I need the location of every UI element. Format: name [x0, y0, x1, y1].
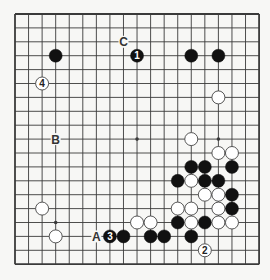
black-stone: [198, 216, 211, 229]
white-stone: [225, 216, 238, 229]
black-stone: [158, 230, 171, 243]
white-stone: [185, 216, 198, 229]
black-stone: [212, 49, 225, 62]
black-stone: [225, 202, 238, 215]
white-stone: [131, 216, 144, 229]
white-stone: [185, 202, 198, 215]
marker-b: B: [51, 133, 60, 147]
move-number-2: 2: [202, 245, 208, 256]
black-stone: [117, 230, 130, 243]
white-stone: [185, 174, 198, 187]
black-stone: [198, 174, 211, 187]
star-point: [135, 137, 139, 141]
black-stone: [171, 174, 184, 187]
black-stone: [185, 49, 198, 62]
black-stone: [198, 160, 211, 173]
marker-c: C: [119, 35, 128, 49]
move-number-4: 4: [39, 78, 45, 89]
black-stone: [225, 188, 238, 201]
white-stone: [212, 91, 225, 104]
black-stone: [49, 49, 62, 62]
white-stone: [36, 202, 49, 215]
move-number-1: 1: [134, 50, 140, 61]
white-stone: [171, 202, 184, 215]
white-stone: [144, 216, 157, 229]
star-point: [54, 221, 58, 225]
white-stone: [185, 133, 198, 146]
go-board-diagram: CBA 1432: [0, 0, 270, 280]
white-stone: [212, 147, 225, 160]
black-stone: [225, 160, 238, 173]
black-stone: [171, 216, 184, 229]
black-stone: [185, 160, 198, 173]
move-number-3: 3: [107, 231, 113, 242]
star-point: [217, 137, 221, 141]
black-stone: [144, 230, 157, 243]
white-stone: [212, 188, 225, 201]
black-stone: [185, 230, 198, 243]
white-stone: [49, 230, 62, 243]
black-stone: [212, 174, 225, 187]
white-stone: [225, 147, 238, 160]
white-stone: [212, 216, 225, 229]
white-stone: [212, 202, 225, 215]
marker-a: A: [92, 230, 101, 244]
white-stone: [198, 188, 211, 201]
